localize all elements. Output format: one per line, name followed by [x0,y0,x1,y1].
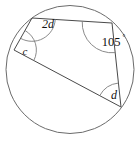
degree-symbol-icon: ° [123,33,126,41]
geometry-diagram-svg: 2d 105 ° d c [0,0,140,141]
angle-label-105: 105 [102,35,121,49]
circle-outline [6,6,134,134]
angle-label-c: c [23,45,28,57]
geometry-figure: 2d 105 ° d c [0,0,140,141]
angle-label-2d: 2d [42,17,55,31]
angle-label-d: d [111,88,118,102]
chord-diagonal-cd [14,50,121,107]
